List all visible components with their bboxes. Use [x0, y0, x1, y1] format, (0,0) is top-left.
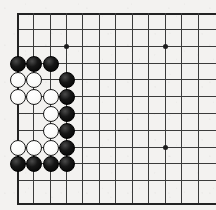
grid-line-horizontal — [17, 180, 216, 181]
star-point — [163, 145, 168, 150]
white-stone[interactable] — [43, 106, 59, 122]
black-stone[interactable] — [26, 56, 42, 72]
white-stone[interactable] — [10, 89, 26, 105]
grid-line-vertical — [148, 13, 149, 203]
star-point — [163, 44, 168, 49]
black-stone[interactable] — [10, 156, 26, 172]
black-stone[interactable] — [43, 156, 59, 172]
white-stone[interactable] — [43, 123, 59, 139]
grid-line-horizontal — [17, 13, 216, 15]
white-stone[interactable] — [43, 89, 59, 105]
black-stone[interactable] — [10, 56, 26, 72]
white-stone[interactable] — [10, 72, 26, 88]
grid-line-vertical — [198, 13, 199, 203]
black-stone[interactable] — [59, 106, 75, 122]
white-stone[interactable] — [26, 89, 42, 105]
grid-line-horizontal — [17, 46, 216, 47]
grid-line-vertical — [165, 13, 166, 203]
black-stone[interactable] — [59, 89, 75, 105]
grid-line-vertical — [82, 13, 83, 203]
white-stone[interactable] — [43, 140, 59, 156]
black-stone[interactable] — [59, 123, 75, 139]
black-stone[interactable] — [26, 156, 42, 172]
grid-line-vertical — [132, 13, 133, 203]
grid-line-horizontal — [17, 203, 216, 205]
go-board[interactable] — [0, 0, 216, 210]
grid-line-horizontal — [17, 29, 216, 30]
grid-line-vertical — [33, 13, 34, 203]
grid-line-vertical — [181, 13, 182, 203]
black-stone[interactable] — [59, 156, 75, 172]
black-stone[interactable] — [59, 72, 75, 88]
grid-line-horizontal — [17, 79, 216, 80]
white-stone[interactable] — [26, 72, 42, 88]
white-stone[interactable] — [26, 140, 42, 156]
grid-line-vertical — [115, 13, 116, 203]
black-stone[interactable] — [59, 140, 75, 156]
grid-line-vertical — [17, 13, 19, 203]
star-point — [64, 44, 69, 49]
black-stone[interactable] — [43, 56, 59, 72]
white-stone[interactable] — [10, 140, 26, 156]
grid-line-vertical — [99, 13, 100, 203]
